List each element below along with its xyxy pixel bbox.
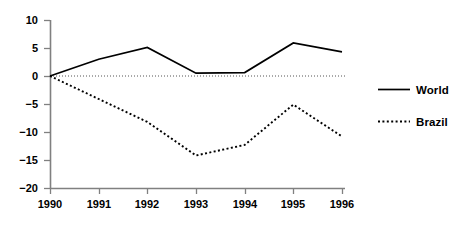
xtick-label-1992: 1992 (124, 199, 170, 210)
y-axis-ticks (44, 21, 50, 189)
ytick-label-neg10: −10 (8, 127, 38, 138)
xtick-label-1991: 1991 (76, 199, 122, 210)
ytick-label-neg20: −20 (8, 183, 38, 194)
ytick-label-10: 10 (8, 15, 38, 26)
ytick-label-neg15: −15 (8, 155, 38, 166)
xtick-label-1996: 1996 (319, 199, 365, 210)
series-line-world (50, 43, 342, 76)
ytick-label-neg5: −5 (8, 99, 38, 110)
legend-label-world: World (416, 84, 449, 96)
legend-label-brazil: Brazil (416, 116, 448, 128)
series-line-brazil (50, 76, 342, 156)
ytick-label-5: 5 (8, 43, 38, 54)
xtick-label-1990: 1990 (27, 199, 73, 210)
axis-lines (50, 20, 345, 189)
xtick-label-1995: 1995 (270, 199, 316, 210)
xtick-label-1994: 1994 (222, 199, 268, 210)
line-chart-figure: 10 5 0 −5 −10 −15 −20 1990 1991 1992 199… (0, 0, 451, 237)
xtick-label-1993: 1993 (173, 199, 219, 210)
ytick-label-0: 0 (8, 71, 38, 82)
